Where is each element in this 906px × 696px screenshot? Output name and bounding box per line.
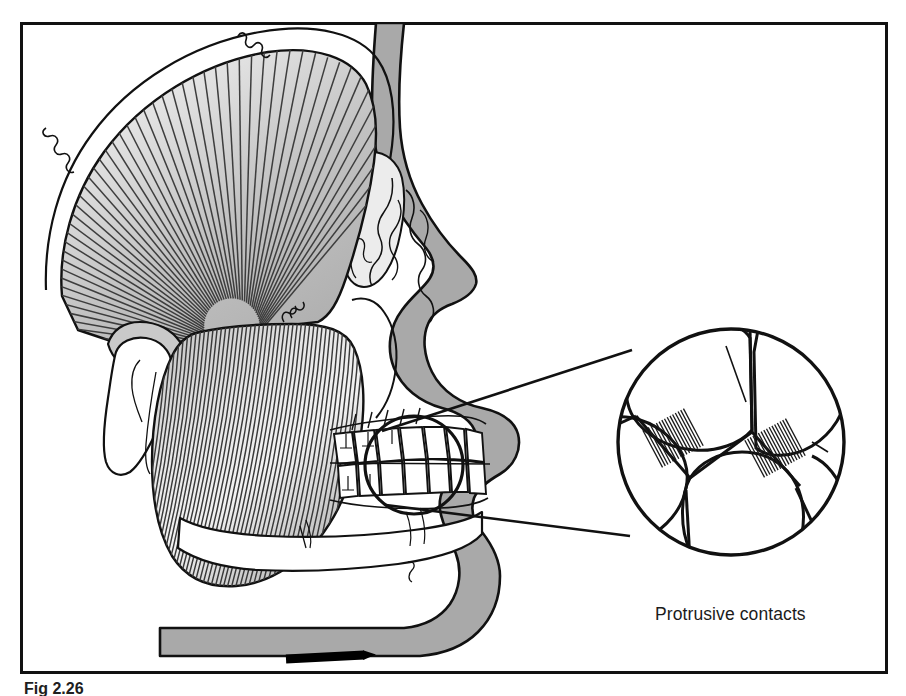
inset-caption-label: Protrusive contacts bbox=[655, 604, 806, 624]
protrusive-direction-arrow bbox=[286, 655, 364, 659]
figure-canvas: Protrusive contacts Fig 2.26 bbox=[0, 0, 906, 696]
figure-number-label: Fig 2.26 bbox=[24, 680, 84, 696]
dental-anatomy-figure: Protrusive contacts Fig 2.26 bbox=[0, 0, 906, 696]
